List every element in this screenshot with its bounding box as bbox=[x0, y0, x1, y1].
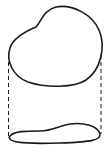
bottom-flattened-shape bbox=[9, 123, 100, 143]
diagram-canvas bbox=[0, 0, 110, 152]
projection-diagram bbox=[0, 0, 110, 152]
top-blob bbox=[9, 6, 102, 86]
